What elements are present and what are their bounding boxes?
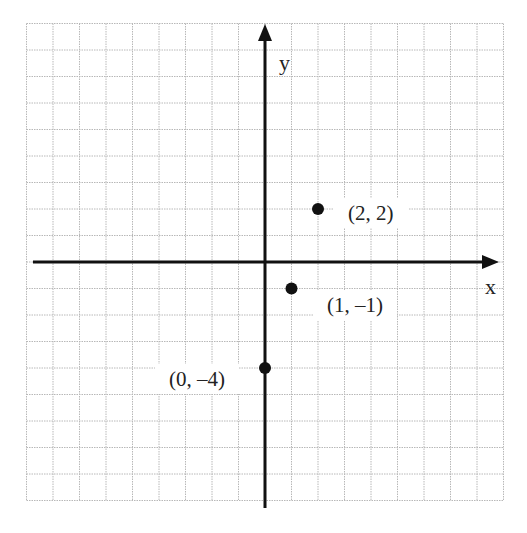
- x-axis-arrow-icon: [482, 255, 499, 269]
- point-label-2-2: (2, 2): [334, 198, 408, 228]
- data-point: [286, 283, 298, 295]
- y-axis-label: y: [279, 52, 290, 74]
- data-point: [259, 362, 271, 374]
- x-axis-label: x: [485, 276, 496, 298]
- y-axis: [258, 24, 272, 508]
- point-label-0-neg4: (0, –4): [155, 364, 239, 394]
- point-label-1-neg1: (1, –1): [313, 290, 397, 320]
- coordinate-plane: [0, 0, 527, 533]
- y-axis-arrow-icon: [258, 24, 272, 41]
- data-point: [312, 203, 324, 215]
